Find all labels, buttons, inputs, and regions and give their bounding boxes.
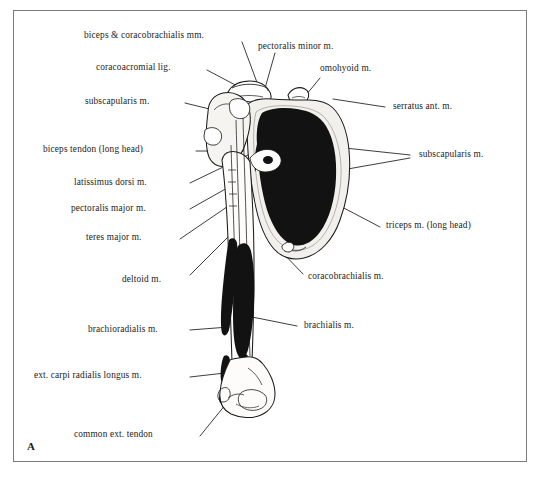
label-serratus-anterior: serratus ant. m.	[393, 102, 452, 111]
greater-tubercle	[229, 99, 249, 119]
label-omohyoid: omohyoid m.	[320, 64, 371, 73]
label-subscapularis-right: subscapularis m.	[419, 150, 483, 159]
label-pectoralis-minor: pectoralis minor m.	[258, 42, 333, 51]
label-deltoid: deltoid m.	[122, 275, 161, 284]
glenoid-tubercle	[263, 156, 273, 164]
label-biceps-tendon: biceps tendon (long head)	[43, 145, 143, 154]
inferior-angle-knob	[282, 242, 294, 252]
label-subscapularis-left: subscapularis m.	[85, 97, 149, 106]
label-brachialis: brachialis m.	[304, 321, 354, 330]
label-brachioradialis: brachioradialis m.	[88, 325, 158, 334]
panel-letter: A	[27, 440, 35, 452]
distal-humerus	[220, 357, 275, 418]
label-latissimus-dorsi: latissimus dorsi m.	[74, 178, 147, 187]
label-coracobrachialis: coracobrachialis m.	[308, 272, 384, 281]
label-triceps-long-head: triceps m. (long head)	[386, 221, 471, 230]
label-teres-major: teres major m.	[86, 233, 142, 242]
skeleton-outline	[204, 81, 350, 418]
lesser-tubercle	[204, 128, 222, 146]
label-pectoralis-major: pectoralis major m.	[71, 204, 146, 213]
label-ext-carpi-radialis-longus: ext. carpi radialis longus m.	[34, 371, 142, 380]
label-common-ext-tendon: common ext. tendon	[74, 430, 153, 439]
label-biceps-coracobrachialis: biceps & coracobrachialis mm.	[84, 31, 204, 40]
figure-page: biceps & coracobrachialis mm. coracoacro…	[0, 0, 538, 479]
anatomy-illustration	[0, 0, 538, 479]
label-coracoacromial-ligament: coracoacromial lig.	[96, 63, 171, 72]
